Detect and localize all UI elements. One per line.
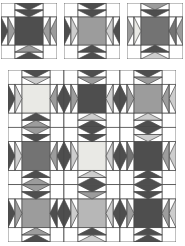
corner-square [8, 170, 22, 184]
block-variations-row [1, 3, 183, 59]
center-square [78, 84, 106, 113]
center-square [15, 17, 43, 45]
corner-square [162, 185, 176, 199]
center-square [134, 142, 162, 171]
corner-square [64, 170, 78, 184]
small-block-1 [1, 3, 57, 59]
corner-square [120, 113, 134, 127]
corner-square [120, 185, 134, 199]
center-square [134, 199, 162, 228]
corner-square [127, 45, 141, 59]
corner-square [50, 127, 64, 141]
corner-square [106, 127, 120, 141]
corner-square [43, 3, 57, 17]
corner-square [64, 113, 78, 127]
center-square [78, 142, 106, 171]
corner-square [106, 170, 120, 184]
center-square [78, 17, 106, 45]
corner-square [64, 45, 78, 59]
corner-square [106, 185, 120, 199]
quilt-diagram [8, 70, 176, 242]
corner-square [8, 127, 22, 141]
center-square [141, 17, 169, 45]
corner-square [106, 113, 120, 127]
corner-square [1, 3, 15, 17]
corner-square [120, 127, 134, 141]
corner-square [50, 170, 64, 184]
corner-square [8, 113, 22, 127]
center-square [134, 84, 162, 113]
center-square [22, 199, 50, 228]
corner-square [50, 228, 64, 242]
corner-square [120, 70, 134, 84]
center-square [22, 142, 50, 171]
corner-square [8, 228, 22, 242]
corner-square [8, 70, 22, 84]
quilt-pattern-page [0, 0, 185, 246]
corner-square [162, 170, 176, 184]
corner-square [64, 228, 78, 242]
corner-square [43, 45, 57, 59]
corner-square [162, 113, 176, 127]
corner-square [106, 228, 120, 242]
corner-square [106, 45, 120, 59]
corner-square [50, 185, 64, 199]
corner-square [120, 170, 134, 184]
quilt-layout-section [8, 70, 176, 242]
corner-square [64, 127, 78, 141]
corner-square [162, 228, 176, 242]
corner-square [120, 228, 134, 242]
corner-square [50, 113, 64, 127]
corner-square [169, 45, 183, 59]
corner-square [106, 70, 120, 84]
small-block-2 [64, 3, 120, 59]
small-block-3 [127, 3, 183, 59]
corner-square [1, 45, 15, 59]
corner-square [162, 127, 176, 141]
corner-square [127, 3, 141, 17]
corner-square [106, 3, 120, 17]
corner-square [50, 70, 64, 84]
corner-square [8, 185, 22, 199]
center-square [78, 199, 106, 228]
corner-square [64, 3, 78, 17]
corner-square [162, 70, 176, 84]
corner-square [64, 70, 78, 84]
corner-square [169, 3, 183, 17]
corner-square [64, 185, 78, 199]
center-square [22, 84, 50, 113]
